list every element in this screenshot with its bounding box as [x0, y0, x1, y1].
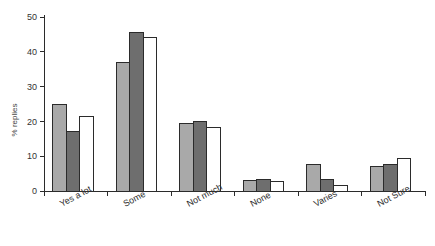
bar [180, 123, 194, 191]
x-category-label: Some [122, 189, 147, 209]
y-tick-label: 0 [32, 186, 37, 196]
bar [116, 63, 130, 191]
y-tick-label: 30 [27, 82, 37, 92]
y-tick-label: 50 [27, 12, 37, 22]
y-tick-label: 40 [27, 47, 37, 57]
bar [307, 165, 321, 191]
bar [257, 179, 271, 191]
bar [53, 104, 67, 191]
bar [270, 182, 284, 191]
bar [193, 121, 207, 191]
bar [384, 165, 398, 191]
bar [334, 185, 348, 191]
chart-canvas: 01020304050 Yes a lotSomeNot muchNoneVar… [0, 0, 435, 246]
bar [370, 167, 384, 191]
bar-chart: 01020304050 Yes a lotSomeNot muchNoneVar… [0, 0, 435, 246]
bars-group [53, 33, 411, 191]
x-category-label: None [249, 190, 273, 209]
bar [243, 181, 257, 191]
bar [143, 37, 157, 191]
y-tick-label: 20 [27, 117, 37, 127]
x-axis [44, 191, 425, 196]
bar [80, 116, 94, 191]
y-axis-title: % replies [10, 104, 19, 137]
bar [66, 131, 80, 191]
y-axis: 01020304050 [27, 12, 44, 196]
y-tick-label: 10 [27, 151, 37, 161]
bar [130, 33, 144, 191]
